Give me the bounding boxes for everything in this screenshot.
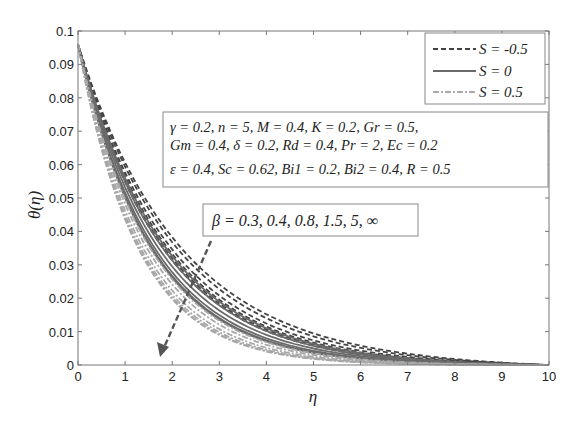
x-tick-label: 7 bbox=[404, 369, 411, 384]
x-tick-label: 8 bbox=[451, 369, 458, 384]
x-tick-label: 4 bbox=[263, 369, 270, 384]
x-tick-label: 1 bbox=[121, 369, 128, 384]
x-tick-label: 3 bbox=[216, 369, 223, 384]
chart: 01234567891000.010.020.030.040.050.060.0… bbox=[0, 0, 578, 426]
param-line-1: γ = 0.2, n = 5, M = 0.4, K = 0.2, Gr = 0… bbox=[170, 119, 418, 135]
x-tick-label: 9 bbox=[498, 369, 505, 384]
y-tick-label: 0.1 bbox=[56, 24, 74, 39]
x-tick-label: 2 bbox=[169, 369, 176, 384]
y-tick-label: 0.08 bbox=[49, 91, 74, 106]
x-axis-label: η bbox=[309, 387, 317, 406]
y-tick-label: 0.03 bbox=[49, 258, 74, 273]
param-line-3: ε = 0.4, Sc = 0.62, Bi1 = 0.2, Bi2 = 0.4… bbox=[170, 161, 451, 177]
y-tick-label: 0.06 bbox=[49, 158, 74, 173]
x-tick-label: 10 bbox=[542, 369, 556, 384]
y-axis-label: θ(η) bbox=[25, 191, 44, 219]
x-tick-label: 5 bbox=[310, 369, 317, 384]
x-tick-label: 0 bbox=[74, 369, 81, 384]
legend-entry-2: S = 0 bbox=[479, 63, 512, 79]
legend-entry-1: S = -0.5 bbox=[479, 41, 528, 57]
y-tick-label: 0.02 bbox=[49, 291, 74, 306]
y-tick-label: 0 bbox=[67, 358, 74, 373]
parameter-box: γ = 0.2, n = 5, M = 0.4, K = 0.2, Gr = 0… bbox=[163, 112, 548, 187]
arrow-head-icon bbox=[157, 342, 169, 357]
y-tick-label: 0.05 bbox=[49, 191, 74, 206]
y-tick-label: 0.04 bbox=[49, 224, 74, 239]
x-tick-label: 6 bbox=[357, 369, 364, 384]
y-tick-label: 0.07 bbox=[49, 124, 74, 139]
legend: S = -0.5 S = 0 S = 0.5 bbox=[425, 33, 545, 104]
beta-label: β = 0.3, 0.4, 0.8, 1.5, 5, ∞ bbox=[211, 212, 378, 230]
param-line-2: Gm = 0.4, δ = 0.2, Rd = 0.4, Pr = 2, Ec … bbox=[170, 137, 438, 153]
y-tick-label: 0.09 bbox=[49, 57, 74, 72]
y-tick-label: 0.01 bbox=[49, 325, 74, 340]
legend-entry-3: S = 0.5 bbox=[479, 84, 523, 100]
